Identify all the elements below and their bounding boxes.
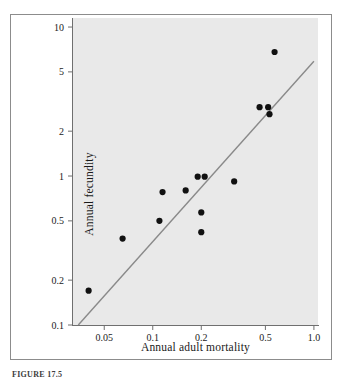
scatter-plot: 0.10.20.512510 0.050.10.20.51.0 — [0, 0, 342, 384]
y-tick-label: 5 — [59, 66, 64, 77]
data-point — [120, 236, 126, 242]
data-point — [198, 229, 204, 235]
data-point — [256, 104, 262, 110]
trendline-group — [78, 61, 314, 325]
y-tick-label: 1 — [59, 171, 64, 182]
y-axis-title: Annual fecundity — [83, 134, 95, 254]
y-tick-group: 0.10.20.512510 — [52, 22, 74, 331]
data-point-group — [86, 49, 278, 294]
regression-line — [78, 61, 314, 325]
data-point — [266, 111, 272, 117]
data-point — [159, 189, 165, 195]
data-point — [183, 187, 189, 193]
data-point — [231, 178, 237, 184]
data-point — [202, 174, 208, 180]
figure-container: 0.10.20.512510 0.050.10.20.51.0 Annual f… — [0, 0, 342, 384]
figure-caption: FIGURE 17.5 — [12, 370, 62, 379]
y-tick-label: 10 — [54, 22, 64, 33]
data-point — [198, 209, 204, 215]
y-tick-label: 0.1 — [52, 320, 65, 331]
y-tick-label: 2 — [59, 126, 64, 137]
x-axis-title: Annual adult mortality — [73, 341, 318, 353]
data-point — [271, 49, 277, 55]
data-point — [265, 104, 271, 110]
y-tick-label: 0.2 — [52, 275, 65, 286]
y-tick-label: 0.5 — [52, 215, 65, 226]
data-point — [195, 174, 201, 180]
data-point — [156, 218, 162, 224]
data-point — [86, 288, 92, 294]
